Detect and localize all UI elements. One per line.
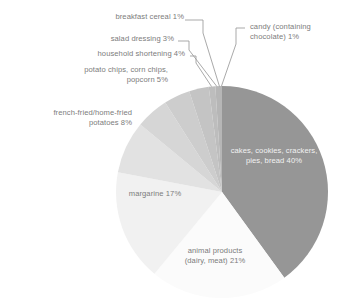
callout-french-fried-potatoes: french-fried/home-fried potatoes 8% — [14, 108, 132, 129]
slice-label-margarine: margarine 17% — [112, 189, 198, 199]
callout-candy: candy (containing chocolate) 1% — [250, 22, 336, 43]
pie-chart-figure: breakfast cereal 1% candy (containing ch… — [0, 0, 344, 304]
callout-household-shortening: household shortening 4% — [63, 49, 185, 59]
slice-label-cakes-cookies-crackers-pies-bread: cakes, cookies, crackers, pies, bread 40… — [218, 146, 330, 167]
callout-potato-chips: potato chips, corn chips, popcorn 5% — [34, 65, 168, 86]
leader-line-breakfast-cereal — [185, 20, 220, 87]
slice-label-animal-products: animal products (dairy, meat) 21% — [163, 246, 267, 267]
callout-breakfast-cereal: breakfast cereal 1% — [98, 12, 184, 22]
leader-lines — [178, 20, 245, 87]
leader-line-household-shortening — [190, 56, 212, 87]
leader-line-salad-dressing — [178, 41, 217, 86]
leader-line-candy — [221, 28, 245, 86]
callout-salad-dressing: salad dressing 3% — [88, 34, 174, 44]
